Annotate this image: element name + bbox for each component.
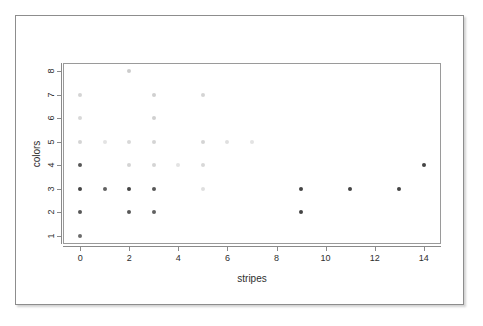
data-point <box>176 163 180 167</box>
data-point <box>78 163 82 167</box>
data-point <box>78 116 82 120</box>
x-tick-6 <box>227 247 228 251</box>
y-tick-label-6: 6 <box>47 113 56 123</box>
y-tick-label-7: 7 <box>47 90 56 100</box>
y-tick-5 <box>57 142 61 143</box>
data-point <box>397 187 401 191</box>
x-tick-label-4: 4 <box>176 254 181 263</box>
data-point <box>152 93 156 97</box>
y-tick-label-8: 8 <box>47 66 56 76</box>
data-point <box>78 93 82 97</box>
data-point <box>152 187 156 191</box>
y-tick-label-3: 3 <box>47 184 56 194</box>
y-tick-label-1: 1 <box>47 231 56 241</box>
data-point <box>152 210 156 214</box>
x-tick-label-0: 0 <box>78 254 83 263</box>
screenshot-root: 02468101214 12345678 stripes colors <box>0 0 483 326</box>
data-point <box>152 116 156 120</box>
data-point <box>127 163 131 167</box>
x-axis-line <box>63 246 441 247</box>
figure-frame: 02468101214 12345678 stripes colors <box>15 15 464 305</box>
y-tick-1 <box>57 236 61 237</box>
data-point <box>152 163 156 167</box>
y-tick-4 <box>57 165 61 166</box>
data-point <box>103 187 107 191</box>
y-tick-7 <box>57 95 61 96</box>
x-tick-10 <box>326 247 327 251</box>
scatter-plot: 02468101214 12345678 stripes colors <box>16 16 465 306</box>
y-tick-label-4: 4 <box>47 160 56 170</box>
y-tick-2 <box>57 212 61 213</box>
data-point <box>78 140 82 144</box>
data-point <box>299 187 303 191</box>
data-point <box>348 187 352 191</box>
data-point <box>225 140 229 144</box>
data-point <box>78 210 82 214</box>
y-axis-line <box>61 63 62 244</box>
data-point <box>103 140 107 144</box>
y-axis-title: colors <box>32 141 42 168</box>
data-point <box>201 187 205 191</box>
x-tick-label-10: 10 <box>321 254 331 263</box>
x-tick-label-2: 2 <box>127 254 132 263</box>
data-point <box>299 210 303 214</box>
y-tick-label-2: 2 <box>47 207 56 217</box>
data-point <box>422 163 426 167</box>
data-point <box>78 234 82 238</box>
x-axis-title: stripes <box>237 274 266 284</box>
y-tick-3 <box>57 189 61 190</box>
data-point <box>201 163 205 167</box>
data-point <box>152 140 156 144</box>
data-point <box>127 187 131 191</box>
data-point <box>201 93 205 97</box>
y-tick-6 <box>57 118 61 119</box>
x-tick-label-14: 14 <box>419 254 429 263</box>
x-tick-8 <box>277 247 278 251</box>
data-point <box>127 210 131 214</box>
plot-panel-box <box>63 63 441 244</box>
data-point <box>78 187 82 191</box>
data-point <box>127 69 131 73</box>
data-point <box>201 140 205 144</box>
x-tick-label-6: 6 <box>225 254 230 263</box>
x-tick-4 <box>178 247 179 251</box>
x-tick-0 <box>80 247 81 251</box>
x-tick-14 <box>424 247 425 251</box>
x-tick-2 <box>129 247 130 251</box>
y-tick-8 <box>57 71 61 72</box>
data-point <box>250 140 254 144</box>
x-tick-12 <box>375 247 376 251</box>
y-tick-label-5: 5 <box>47 137 56 147</box>
data-point <box>127 140 131 144</box>
x-tick-label-12: 12 <box>370 254 380 263</box>
x-tick-label-8: 8 <box>274 254 279 263</box>
